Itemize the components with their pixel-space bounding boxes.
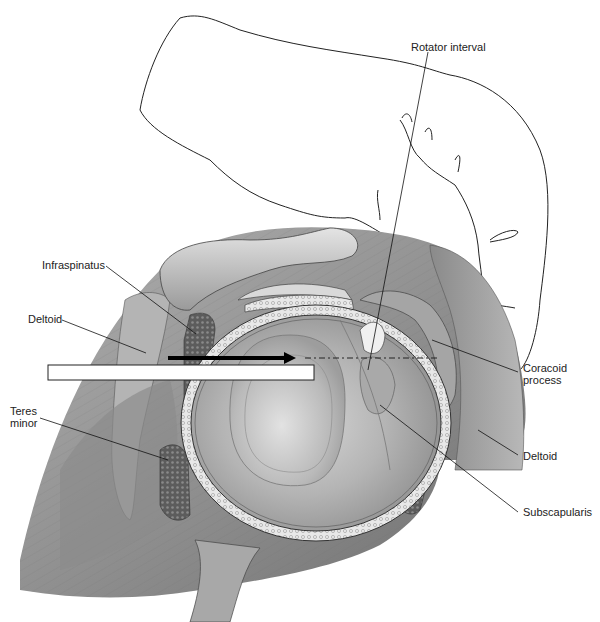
anatomy-figure: Rotator interval Infraspinatus Deltoid C… (0, 0, 600, 622)
arthroscope-cannula (48, 365, 314, 380)
label-infraspinatus: Infraspinatus (42, 259, 105, 271)
shoulder-illustration (0, 0, 600, 622)
label-deltoid-left: Deltoid (28, 313, 62, 325)
label-rotator-interval: Rotator interval (411, 41, 486, 53)
glenoid-view (181, 305, 451, 541)
label-subscapularis: Subscapularis (523, 506, 592, 518)
label-teres-minor: Teres minor (10, 405, 38, 429)
label-deltoid-right: Deltoid (523, 450, 557, 462)
label-coracoid-process: Coracoid process (523, 362, 567, 386)
